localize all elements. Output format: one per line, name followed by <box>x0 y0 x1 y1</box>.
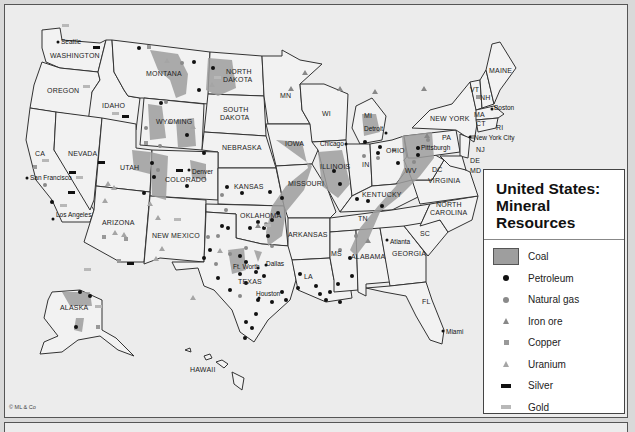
black-dot-icon <box>503 275 509 281</box>
city-seattle: Seattle <box>61 38 82 45</box>
map-title-line2: Mineral Resources <box>496 197 614 231</box>
label-nj: NJ <box>476 146 485 153</box>
label-utah: UTAH <box>120 164 139 171</box>
city-los-angeles: Los Angeles <box>56 211 92 219</box>
label-ms: MS <box>331 250 342 257</box>
city-boston: Boston <box>494 104 515 111</box>
legend-item-silver: Silver <box>484 375 624 397</box>
label-nebraska: NEBRASKA <box>222 144 262 151</box>
state-new-jersey <box>460 134 470 158</box>
map-title: United States: Mineral Resources <box>484 170 624 240</box>
coal-swatch-icon <box>493 248 519 265</box>
label-wv: WV <box>405 167 417 174</box>
legend-item-uranium: Uranium <box>484 354 624 376</box>
label-missouri: MISSOURI <box>288 180 324 187</box>
square-icon <box>504 340 509 345</box>
gray-dot-icon <box>503 297 509 303</box>
legend-item-iron-ore: Iron ore <box>484 311 624 333</box>
label-hawaii: HAWAII <box>190 366 216 373</box>
label-montana: MONTANA <box>146 70 182 77</box>
label-oklahoma: OKLAHOMA <box>240 212 281 219</box>
label-la: LA <box>304 273 313 280</box>
legend-item-petroleum: Petroleum <box>484 268 624 290</box>
city-ft-worth: Ft. Worth <box>233 263 260 270</box>
city-chicago: Chicago <box>320 140 344 148</box>
label-north-dakota-2: DAKOTA <box>223 76 253 83</box>
label-south-dakota-2: DAKOTA <box>220 114 250 121</box>
label-washington: WASHINGTON <box>50 52 100 59</box>
light-triangle-icon <box>503 361 509 367</box>
label-dc: DC <box>432 166 443 173</box>
legend-item-natural-gas: Natural gas <box>484 289 624 311</box>
label-texas: TEXAS <box>238 278 262 285</box>
label-nh: NH <box>480 94 491 101</box>
label-georgia: GEORGIA <box>392 250 426 257</box>
label-north-carolina-2: CAROLINA <box>430 209 468 216</box>
label-colorado: COLORADO <box>165 176 207 183</box>
label-south-dakota-1: SOUTH <box>223 106 249 113</box>
label-de: DE <box>470 157 480 164</box>
label-tn: TN <box>358 215 368 222</box>
label-alaska: ALASKA <box>60 304 89 311</box>
city-pittsburgh: Pittsburgh <box>421 144 451 152</box>
label-arizona: ARIZONA <box>102 219 135 226</box>
label-north-carolina-1: NORTH <box>436 201 462 208</box>
state-arkansas <box>288 218 330 260</box>
label-virginia: VIRGINIA <box>428 177 460 184</box>
label-wyoming: WYOMING <box>156 118 192 125</box>
label-md: MD <box>470 167 481 174</box>
legend-item-coal: Coal <box>484 246 624 268</box>
city-new-york-city: New York City <box>474 134 515 142</box>
city-atlanta: Atlanta <box>390 238 411 245</box>
legend-item-copper: Copper <box>484 332 624 354</box>
label-nevada: NEVADA <box>68 150 98 157</box>
label-new-york: NEW YORK <box>430 115 470 122</box>
state-new-mexico <box>144 196 206 264</box>
label-ca: CA <box>35 150 45 157</box>
label-illinois: ILLINOIS <box>320 163 351 170</box>
label-alabama: ALABAMA <box>351 253 386 260</box>
label-arkansas: ARKANSAS <box>288 231 328 238</box>
label-kentucky: KENTUCKY <box>362 191 402 198</box>
city-san-francisco: San Francisco <box>30 174 72 181</box>
copyright-notice: © ML & Co <box>9 404 36 410</box>
label-fl: FL <box>422 298 431 305</box>
label-maine: MAINE <box>489 67 512 74</box>
label-north-dakota-1: NORTH <box>226 68 252 75</box>
legend-panel: United States: Mineral Resources Coal Pe… <box>483 169 625 414</box>
city-dallas: Dallas <box>266 260 285 267</box>
label-wi: WI <box>322 110 331 117</box>
triangle-icon <box>503 318 509 324</box>
state-florida <box>366 282 444 344</box>
label-kansas: KANSAS <box>234 183 264 190</box>
label-ri: RI <box>496 124 503 131</box>
label-iowa: IOWA <box>285 140 304 147</box>
legend-item-gold: Gold <box>484 397 624 419</box>
label-pa: PA <box>442 134 451 141</box>
label-sc: SC <box>420 230 430 237</box>
label-in: IN <box>362 161 369 168</box>
city-miami: Miami <box>446 328 463 335</box>
label-ct: CT <box>476 120 486 127</box>
city-houston: Houston <box>256 290 281 297</box>
city-detroit: Detroit <box>364 125 383 132</box>
legend-list: Coal Petroleum Natural gas Iron ore Copp… <box>484 240 624 418</box>
label-new-mexico: NEW MEXICO <box>152 232 200 239</box>
label-oregon: OREGON <box>47 87 79 94</box>
label-vt: VT <box>470 86 480 93</box>
light-bar-icon <box>501 405 511 409</box>
label-mi: MI <box>364 112 372 119</box>
label-idaho: IDAHO <box>102 102 126 109</box>
label-ohio: OHIO <box>386 147 405 154</box>
city-denver: Denver <box>192 168 214 175</box>
label-mn: MN <box>280 92 291 99</box>
black-bar-icon <box>501 384 511 388</box>
label-ma: MA <box>474 111 485 118</box>
state-mississippi <box>330 230 358 292</box>
map-title-line1: United States: <box>496 180 614 197</box>
